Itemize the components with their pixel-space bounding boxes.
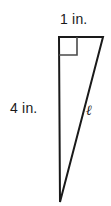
top-leg-label: 1 in.	[60, 12, 87, 26]
geometry-figure: 1 in. 4 in. ℓ	[0, 0, 111, 206]
right-angle-icon	[59, 37, 77, 55]
hypotenuse-label: ℓ	[86, 104, 92, 118]
triangle-outline	[59, 37, 103, 202]
left-leg-label: 4 in.	[10, 101, 37, 115]
